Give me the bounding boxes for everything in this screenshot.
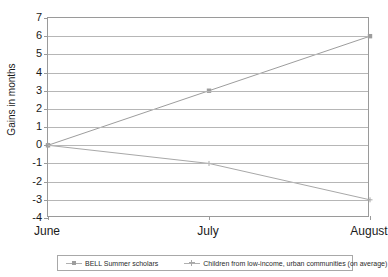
x-tick-label: June <box>34 224 60 238</box>
plot-area <box>47 17 369 217</box>
gridline <box>48 200 368 201</box>
data-point-marker <box>368 197 373 202</box>
y-tick-label: 5 <box>20 48 42 58</box>
y-tick-label: 7 <box>20 12 42 22</box>
legend-label-bell: BELL Summer scholars <box>85 260 158 267</box>
gridline <box>48 54 368 55</box>
x-tick-mark <box>48 216 49 220</box>
gridline <box>48 145 368 146</box>
y-tick-mark <box>44 109 48 110</box>
series-layer <box>48 18 370 218</box>
data-point-marker <box>368 34 372 38</box>
y-tick-label: -2 <box>20 176 42 186</box>
y-tick-mark <box>44 182 48 183</box>
legend-item-comparison[interactable]: Children from low-income, urban communit… <box>184 260 387 267</box>
y-tick-mark <box>44 36 48 37</box>
gridline <box>48 182 368 183</box>
gridline <box>48 163 368 164</box>
y-tick-label: 3 <box>20 85 42 95</box>
y-tick-label: -3 <box>20 194 42 204</box>
x-tick-label: July <box>197 224 218 238</box>
chart-legend: BELL Summer scholars Children from low-i… <box>57 255 353 271</box>
legend-item-bell[interactable]: BELL Summer scholars <box>66 260 158 267</box>
y-tick-mark <box>44 163 48 164</box>
x-tick-label: August <box>350 224 387 238</box>
y-tick-mark <box>44 91 48 92</box>
gridline <box>48 36 368 37</box>
y-tick-label: 6 <box>20 30 42 40</box>
y-axis-title: Gains in months <box>6 35 17 165</box>
gridline <box>48 109 368 110</box>
y-tick-label: 1 <box>20 121 42 131</box>
y-tick-mark <box>44 127 48 128</box>
y-tick-mark <box>44 54 48 55</box>
y-tick-mark <box>44 200 48 201</box>
y-tick-label: -1 <box>20 157 42 167</box>
square-marker-icon <box>66 260 82 267</box>
y-tick-label: 2 <box>20 103 42 113</box>
x-tick-mark <box>370 216 371 220</box>
gridline <box>48 91 368 92</box>
y-tick-label: 0 <box>20 139 42 149</box>
cross-marker-icon <box>184 260 200 267</box>
gridline <box>48 73 368 74</box>
y-tick-mark <box>44 18 48 19</box>
legend-label-comparison: Children from low-income, urban communit… <box>203 260 387 267</box>
y-tick-label: 4 <box>20 67 42 77</box>
x-axis-tick-labels: JuneJulyAugust <box>47 224 369 242</box>
y-tick-mark <box>44 73 48 74</box>
y-tick-label: -4 <box>20 212 42 222</box>
x-tick-mark <box>209 216 210 220</box>
series-line <box>48 145 370 200</box>
gridline <box>48 127 368 128</box>
y-tick-mark <box>44 145 48 146</box>
